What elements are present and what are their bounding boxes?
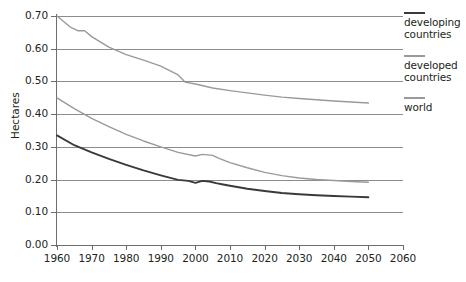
legend-label-line2: countries (404, 29, 466, 41)
legend-label-world: world (404, 102, 466, 114)
series-line-developed-countries (57, 98, 368, 182)
legend-item-developing-countries: developing countries (404, 12, 466, 40)
series-line-world (57, 16, 368, 103)
chart-container: Hectares 0.000.100.200.300.400.500.600.7… (0, 0, 466, 282)
series-line-developing-countries (57, 135, 368, 197)
legend-item-world: world (404, 97, 466, 114)
series-lines (0, 0, 466, 282)
legend-label-line1: world (404, 102, 466, 114)
legend-label-developing-countries: developing countries (404, 17, 466, 40)
legend-swatch-developed-countries (404, 55, 425, 57)
legend-label-line1: developed (404, 60, 466, 72)
legend-label-line1: developing (404, 17, 466, 29)
legend-item-developed-countries: developed countries (404, 55, 466, 83)
legend-swatch-world (404, 97, 425, 99)
legend-label-developed-countries: developed countries (404, 60, 466, 83)
legend-label-line2: countries (404, 72, 466, 84)
legend-swatch-developing-countries (404, 12, 425, 14)
